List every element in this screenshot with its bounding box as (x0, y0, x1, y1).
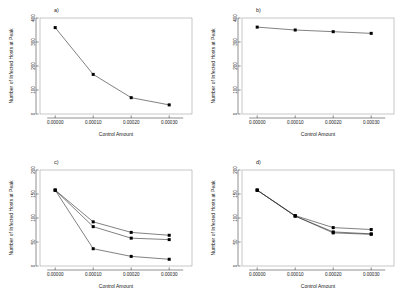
x-tick-label: 0.00010 (85, 272, 102, 277)
panel-a: 01002003004000.000000.000100.000200.0003… (0, 0, 202, 152)
y-tick-label: 200 (232, 62, 237, 70)
data-point (54, 188, 57, 191)
data-point (168, 257, 171, 260)
panel-plot-1: 01002003004000.000000.000100.000200.0003… (0, 0, 202, 152)
y-tick-label: 100 (31, 213, 36, 221)
y-axis-title: Number of Infected Hosts at Peak (210, 28, 216, 104)
y-axis-title: Number of Infected Hosts at Peak (210, 179, 216, 255)
panel-plot-2: 01002003004000.000000.000100.000200.0003… (202, 0, 403, 152)
panel-b: 01002003004000.000000.000100.000200.0003… (202, 0, 403, 152)
x-axis-title: Control Amount (99, 131, 134, 137)
data-point (293, 214, 296, 217)
y-tick-label: 0 (31, 112, 36, 115)
panel-letter-label: b) (256, 7, 261, 13)
y-tick-label: 300 (232, 38, 237, 46)
y-tick-label: 200 (31, 165, 36, 173)
data-point (331, 231, 334, 234)
panel-plot-3: 0501001502000.000000.000100.000200.00030… (0, 152, 202, 303)
y-tick-label: 200 (31, 62, 36, 70)
x-tick-label: 0.00010 (286, 120, 303, 125)
panel-letter-label: c) (54, 159, 59, 165)
y-tick-label: 400 (31, 14, 36, 22)
data-point (255, 26, 258, 29)
data-line-3 (257, 190, 371, 234)
panel-d: 0501001502000.000000.000100.000200.00030… (202, 152, 403, 303)
y-tick-label: 0 (232, 264, 237, 267)
x-tick-label: 0.00030 (362, 272, 379, 277)
data-point (331, 30, 334, 33)
panel-plot-4: 0501001502000.000000.000100.000200.00030… (202, 152, 403, 303)
data-point (168, 103, 171, 106)
figure-canvas: 01002003004000.000000.000100.000200.0003… (0, 0, 403, 303)
x-tick-label: 0.00020 (324, 120, 341, 125)
x-tick-label: 0.00020 (123, 120, 140, 125)
panel-letter-label: d) (256, 159, 261, 165)
data-point (130, 96, 133, 99)
data-line-2 (257, 190, 371, 234)
data-line-1 (257, 190, 371, 229)
y-tick-label: 300 (31, 38, 36, 46)
x-axis-title: Control Amount (300, 283, 335, 289)
y-axis-title: Number of Infected Hosts at Peak (8, 179, 14, 255)
data-point (92, 73, 95, 76)
x-tick-label: 0.00000 (248, 272, 265, 277)
data-point (92, 225, 95, 228)
panel-letter-label: a) (54, 7, 59, 13)
data-line-3 (55, 190, 169, 259)
x-tick-label: 0.00000 (47, 120, 64, 125)
data-line-1 (257, 27, 371, 33)
y-tick-label: 50 (31, 239, 36, 245)
data-point (92, 220, 95, 223)
data-point (369, 32, 372, 35)
data-point (130, 230, 133, 233)
data-point (331, 226, 334, 229)
y-tick-label: 150 (232, 189, 237, 197)
data-point (130, 254, 133, 257)
x-tick-label: 0.00010 (286, 272, 303, 277)
data-point (168, 238, 171, 241)
data-point (54, 26, 57, 29)
data-point (130, 236, 133, 239)
y-tick-label: 100 (232, 213, 237, 221)
y-tick-label: 200 (232, 165, 237, 173)
data-point (168, 233, 171, 236)
x-axis-title: Control Amount (99, 283, 134, 289)
y-tick-label: 0 (31, 264, 36, 267)
data-point (369, 232, 372, 235)
x-tick-label: 0.00000 (47, 272, 64, 277)
data-point (92, 247, 95, 250)
x-axis-title: Control Amount (300, 131, 335, 137)
data-line-1 (55, 190, 169, 235)
x-tick-label: 0.00000 (248, 120, 265, 125)
x-tick-label: 0.00030 (161, 272, 178, 277)
data-line-1 (55, 28, 169, 105)
y-tick-label: 400 (232, 14, 237, 22)
x-tick-label: 0.00020 (324, 272, 341, 277)
data-point (255, 188, 258, 191)
plot-frame (40, 170, 192, 266)
y-tick-label: 100 (31, 86, 36, 94)
x-tick-label: 0.00020 (123, 272, 140, 277)
plot-frame (40, 18, 192, 114)
y-axis-title: Number of Infected Hosts at Peak (8, 28, 14, 104)
y-tick-label: 50 (232, 239, 237, 245)
plot-frame (242, 170, 394, 266)
data-line-2 (55, 190, 169, 239)
x-tick-label: 0.00030 (362, 120, 379, 125)
panel-c: 0501001502000.000000.000100.000200.00030… (0, 152, 202, 303)
data-point (369, 228, 372, 231)
y-tick-label: 150 (31, 189, 36, 197)
y-tick-label: 100 (232, 86, 237, 94)
y-tick-label: 0 (232, 112, 237, 115)
data-point (293, 29, 296, 32)
x-tick-label: 0.00010 (85, 120, 102, 125)
x-tick-label: 0.00030 (161, 120, 178, 125)
